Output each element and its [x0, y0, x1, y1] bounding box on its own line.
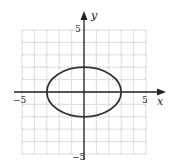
y-min-tick-label: −5 [72, 152, 86, 162]
y-axis-label: y [90, 9, 98, 22]
ellipse-graph: −5 5 5 −5 y x [0, 0, 171, 164]
x-min-tick-label: −5 [13, 95, 27, 105]
x-max-tick-label: 5 [142, 95, 148, 105]
x-axis-label: x [157, 95, 164, 108]
y-axis-arrow-icon [81, 11, 88, 20]
y-max-tick-label: 5 [75, 24, 81, 34]
y-axis [81, 11, 88, 160]
